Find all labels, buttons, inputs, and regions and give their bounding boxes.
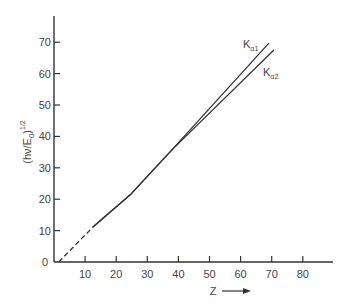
y-tick-label: 0 [42,256,48,268]
series-line-k2 [93,50,274,227]
y-tick-label: 50 [39,99,51,111]
series-line-extrapolation [59,227,93,262]
y-tick-label: 40 [39,130,51,142]
series-label: Kα1 [243,38,258,52]
x-tick-label: 40 [172,268,184,280]
y-tick-label: 30 [39,162,51,174]
y-tick-label: 70 [39,36,51,48]
x-tick-label: 80 [297,268,309,280]
series-lines [59,43,274,262]
moseley-chart: 0102030405060701020304050607080Z(hν/E0)1… [0,0,350,304]
x-tick-label: 50 [203,268,215,280]
series-labels: Kα1Kα2 [243,38,278,80]
y-tick-label: 60 [39,68,51,80]
y-tick-label: 20 [39,193,51,205]
x-tick-label: 30 [141,268,153,280]
y-axis-title: (hν/E0)1/2 [19,120,36,164]
x-tick-label: 20 [110,268,122,280]
x-axis-title: Z [210,285,217,297]
series-label: Kα2 [263,66,278,80]
x-axis-arrowhead-icon [243,288,251,294]
x-tick-label: 70 [266,268,278,280]
y-tick-label: 10 [39,225,51,237]
series-line-k1 [93,43,269,227]
svg-text:(hν/E0)1/2: (hν/E0)1/2 [19,120,36,164]
x-tick-label: 10 [79,268,91,280]
x-tick-label: 60 [234,268,246,280]
